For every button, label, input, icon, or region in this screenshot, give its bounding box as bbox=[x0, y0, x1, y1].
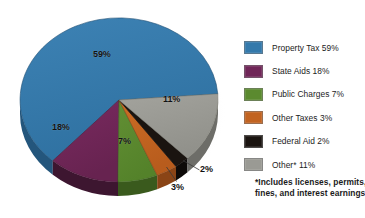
legend-swatch-other-taxes bbox=[244, 111, 263, 124]
pie-label-property-tax: 59% bbox=[93, 49, 111, 59]
legend-label-federal-aid: Federal Aid 2% bbox=[272, 136, 330, 146]
pie-label-other: 11% bbox=[163, 94, 180, 104]
pie-label-federal-aid: 2% bbox=[200, 164, 213, 174]
legend-swatch-other bbox=[244, 158, 263, 171]
legend-item-property-tax[interactable]: Property Tax 59% bbox=[244, 36, 365, 59]
pie-chart-plot-area: 59% 18% 7% 11% 3% 2% bbox=[0, 0, 240, 218]
legend-label-other: Other* 11% bbox=[272, 160, 315, 170]
legend-swatch-public-charges bbox=[244, 88, 263, 101]
legend-label-property-tax: Property Tax 59% bbox=[272, 43, 339, 53]
legend-item-other[interactable]: Other* 11% bbox=[244, 153, 365, 176]
legend-item-public-charges[interactable]: Public Charges 7% bbox=[244, 83, 365, 106]
pie-chart-figure: 59% 18% 7% 11% 3% 2% Property Tax 59% St… bbox=[0, 0, 365, 218]
pie-label-other-taxes: 3% bbox=[171, 182, 184, 192]
legend-label-state-aids: State Aids 18% bbox=[272, 66, 330, 76]
chart-legend: Property Tax 59% State Aids 18% Public C… bbox=[244, 36, 365, 176]
legend-item-state-aids[interactable]: State Aids 18% bbox=[244, 59, 365, 82]
footnote-line-1: *Includes licenses, permits, bbox=[255, 177, 365, 188]
legend-swatch-state-aids bbox=[244, 65, 263, 78]
legend-label-public-charges: Public Charges 7% bbox=[272, 89, 344, 99]
legend-swatch-property-tax bbox=[244, 41, 263, 54]
legend-item-federal-aid[interactable]: Federal Aid 2% bbox=[244, 130, 365, 153]
legend-swatch-federal-aid bbox=[244, 135, 263, 148]
pie-chart-svg bbox=[0, 0, 240, 218]
legend-label-other-taxes: Other Taxes 3% bbox=[272, 113, 332, 123]
footnote-line-2: fines, and interest earnings. bbox=[255, 188, 365, 199]
pie-label-state-aids: 18% bbox=[52, 122, 70, 132]
pie-label-public-charges: 7% bbox=[118, 136, 131, 146]
chart-footnote: *Includes licenses, permits, fines, and … bbox=[255, 177, 365, 200]
legend-item-other-taxes[interactable]: Other Taxes 3% bbox=[244, 106, 365, 129]
